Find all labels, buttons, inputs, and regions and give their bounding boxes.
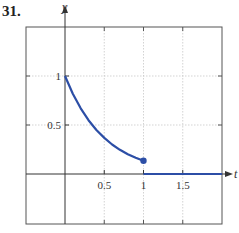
axes: [26, 5, 233, 224]
y-tick-label: 1: [56, 70, 62, 82]
t-axis-label: t: [234, 167, 238, 181]
x-tick-label: 1: [141, 179, 147, 191]
chart: yt0.511.50.51: [0, 0, 239, 233]
t-axis-arrow-icon: [225, 171, 233, 177]
endpoint-dot-icon: [140, 158, 146, 164]
y-axis-label: y: [61, 0, 68, 14]
y-tick-label: 0.5: [47, 119, 61, 131]
x-tick-label: 0.5: [97, 179, 111, 191]
x-tick-label: 1.5: [176, 179, 190, 191]
